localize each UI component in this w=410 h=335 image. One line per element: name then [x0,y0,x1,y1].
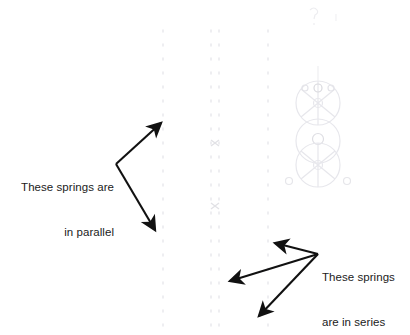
parallel-arrow-upper [116,123,161,164]
parallel-annotation-label: These springs are in parallel [8,150,114,270]
parallel-arrow-group [116,123,161,230]
parallel-annotation-line-1: These springs are [8,180,114,195]
series-arrow-upper [275,243,318,254]
series-annotation-label: These springs are in series [322,240,410,335]
series-arrow-group [230,243,318,316]
parallel-annotation-line-2: in parallel [8,225,114,240]
parallel-arrow-lower [116,164,155,230]
series-annotation-line-1: These springs [322,270,410,285]
diagram-canvas: These springs are in parallel These spri… [0,0,410,335]
series-annotation-line-2: are in series [322,315,410,330]
